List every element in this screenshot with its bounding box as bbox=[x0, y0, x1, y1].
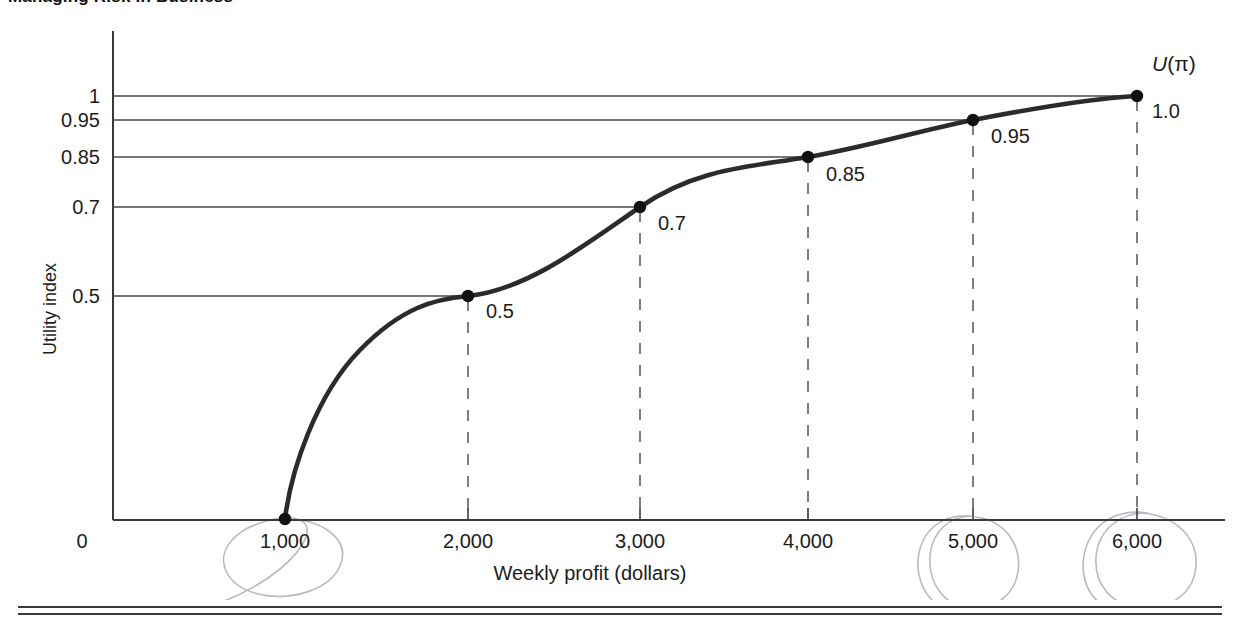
x-tick-label-1000: 1,000 bbox=[233, 530, 337, 553]
point-4000-0_85 bbox=[802, 151, 814, 163]
x-tick-label-6000: 6,000 bbox=[1085, 530, 1189, 553]
x-tick-label-0: 0 bbox=[58, 530, 106, 553]
x-axis-title: Weekly profit (dollars) bbox=[430, 562, 750, 585]
footer-rule-bottom bbox=[18, 613, 1222, 615]
point-label-0_5: 0.5 bbox=[486, 300, 514, 323]
utility-curve-plot bbox=[0, 0, 1240, 600]
x-tick-label-2000: 2,000 bbox=[416, 530, 520, 553]
data-point-markers bbox=[279, 90, 1143, 525]
x-tick-label-4000: 4,000 bbox=[756, 530, 860, 553]
point-2000-0_5 bbox=[462, 290, 474, 302]
point-1000-0 bbox=[279, 513, 291, 525]
annotation-circle-6000 bbox=[1083, 512, 1196, 600]
point-5000-0_95 bbox=[967, 114, 979, 126]
y-axis-title: Utility index bbox=[40, 263, 61, 355]
curve-label-close-paren: ) bbox=[1189, 52, 1196, 75]
point-label-0_7: 0.7 bbox=[658, 212, 686, 235]
annotation-circle-5000 bbox=[918, 516, 1019, 600]
x-tick-label-5000: 5,000 bbox=[921, 530, 1025, 553]
y-tick-label-0_85: 0.85 bbox=[32, 146, 100, 169]
point-3000-0_7 bbox=[634, 201, 646, 213]
curve-label-u: U bbox=[1152, 52, 1167, 75]
handdrawn-annotations bbox=[190, 512, 1196, 600]
curve-label-u-pi: U(π) bbox=[1152, 52, 1196, 76]
point-label-0_85: 0.85 bbox=[826, 163, 865, 186]
point-label-1_0: 1.0 bbox=[1152, 100, 1180, 123]
y-tick-label-1: 1 bbox=[48, 85, 100, 108]
y-tick-label-0_7: 0.7 bbox=[40, 196, 100, 219]
y-tick-label-0_95: 0.95 bbox=[32, 109, 100, 132]
pi-symbol: π bbox=[1174, 52, 1189, 75]
horizontal-leader-lines bbox=[113, 96, 1137, 296]
point-label-0_95: 0.95 bbox=[991, 125, 1030, 148]
x-axis-ticks bbox=[468, 508, 1137, 520]
chart-canvas: 1 0.95 0.85 0.7 0.5 Utility index 0 1,00… bbox=[0, 0, 1240, 600]
vertical-drop-lines bbox=[468, 100, 1137, 516]
footer-rule-top bbox=[18, 606, 1222, 608]
utility-curve bbox=[285, 96, 1137, 519]
point-6000-1_0 bbox=[1131, 90, 1143, 102]
x-tick-label-3000: 3,000 bbox=[588, 530, 692, 553]
